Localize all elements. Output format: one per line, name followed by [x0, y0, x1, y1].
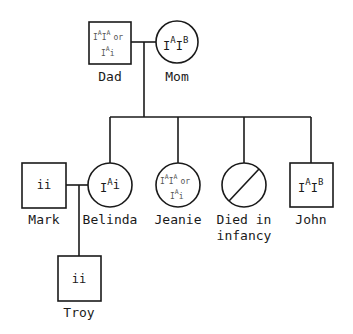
troy-genotype: ii [72, 272, 86, 286]
individual-died-infancy: Died in infancy [217, 163, 272, 243]
john-label: John [295, 212, 326, 227]
mark-label: Mark [28, 212, 59, 227]
pedigree-chart: IAIAor IAi Dad IAIB Mom ii Mark IAi Beli… [0, 0, 353, 334]
individual-jeanie: IAIAor IAi Jeanie [155, 163, 202, 227]
died-label-line1: Died in [217, 212, 272, 227]
individual-mom: IAIB Mom [156, 21, 198, 84]
belinda-label: Belinda [83, 212, 138, 227]
individual-mark: ii Mark [22, 163, 66, 227]
individual-dad: IAIAor IAi Dad [89, 22, 131, 84]
mom-label: Mom [165, 69, 189, 84]
troy-label: Troy [63, 305, 94, 320]
died-label-line2: infancy [217, 228, 272, 243]
individual-belinda: IAi Belinda [83, 163, 138, 227]
jeanie-label: Jeanie [155, 212, 202, 227]
individual-john: IAIB John [290, 163, 333, 227]
mark-genotype: ii [37, 178, 51, 192]
dad-label: Dad [98, 69, 121, 84]
individual-troy: ii Troy [58, 256, 101, 320]
